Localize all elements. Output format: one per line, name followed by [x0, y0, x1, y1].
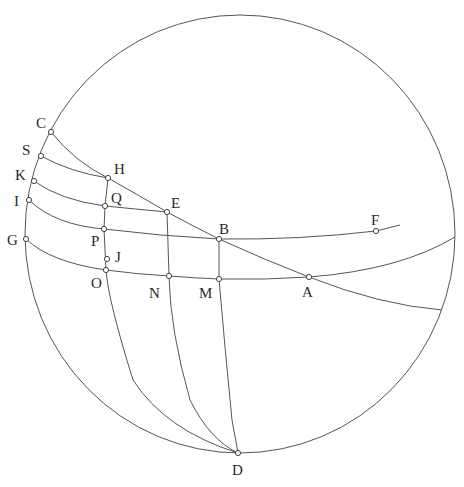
label-k: K [15, 167, 26, 183]
label-s: S [22, 142, 30, 158]
label-p: P [91, 233, 99, 249]
point-m [216, 276, 221, 281]
point-h [105, 175, 110, 180]
point-b [216, 236, 221, 241]
point-i [26, 197, 31, 202]
label-q: Q [111, 190, 122, 206]
label-g: G [7, 232, 18, 248]
point-j [104, 256, 109, 261]
label-b: B [219, 221, 229, 237]
arc-KQE [34, 181, 167, 212]
meridian-END [167, 212, 238, 453]
label-c: C [36, 115, 46, 131]
point-e [164, 209, 169, 214]
label-h: H [114, 161, 125, 177]
label-e: E [171, 195, 180, 211]
sphere-diagram: CSKIGHQPJOEBNMAFD [0, 0, 464, 487]
point-p [101, 226, 106, 231]
point-d [235, 450, 240, 455]
point-a [306, 274, 311, 279]
label-m: M [199, 285, 212, 301]
label-f: F [371, 212, 379, 228]
label-j: J [115, 249, 121, 265]
point-c [48, 129, 53, 134]
arc-CHEBA [51, 132, 442, 310]
meridian-BMD [219, 239, 238, 453]
arcs-group [26, 132, 455, 453]
label-n: N [149, 285, 160, 301]
arc-SH [41, 156, 108, 178]
label-i: I [14, 193, 19, 209]
point-q [102, 203, 107, 208]
point-f [373, 228, 378, 233]
point-g [23, 236, 28, 241]
meridian-HQPOD [104, 178, 238, 453]
label-d: D [232, 462, 243, 478]
point-k [31, 178, 36, 183]
point-n [166, 273, 171, 278]
arc-IPBF [29, 200, 400, 239]
sphere-outline [25, 15, 455, 453]
label-a: A [302, 284, 313, 300]
point-s [38, 153, 43, 158]
labels-group: CSKIGHQPJOEBNMAFD [7, 115, 379, 478]
label-o: O [91, 275, 102, 291]
point-o [103, 267, 108, 272]
